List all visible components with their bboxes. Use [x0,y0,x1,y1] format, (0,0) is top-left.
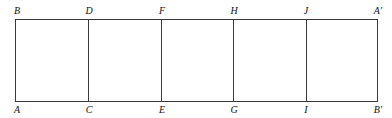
segment-ij [306,19,307,102]
label-a: A [14,105,20,115]
label-c: C [86,105,93,115]
label-h: H [230,6,237,16]
label-g: G [230,105,237,115]
label-d: D [85,6,92,16]
segment-cd [88,19,89,102]
five-square-rectangle-diagram: B D F H J A′ A C E G I B′ [0,0,392,118]
label-b-prime: B′ [374,105,382,115]
label-b: B [14,6,20,16]
label-j: J [304,6,308,16]
label-e: E [159,105,165,115]
label-a-prime: A′ [374,6,382,16]
label-i: I [304,105,307,115]
segment-gh [233,19,234,102]
segment-ef [161,19,162,102]
outer-rectangle [15,19,378,102]
label-f: F [159,6,165,16]
